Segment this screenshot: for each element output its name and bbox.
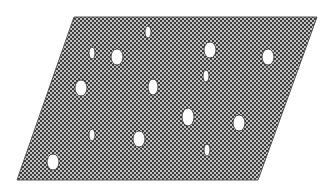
hole-large — [75, 80, 87, 96]
hole-small — [89, 47, 95, 59]
hole-small — [203, 70, 209, 82]
hole-small — [204, 144, 210, 156]
hole-large — [204, 42, 216, 58]
hole-large — [233, 115, 245, 131]
hole-large — [262, 49, 274, 65]
hole-large — [47, 154, 59, 170]
hole-large — [182, 108, 194, 126]
hole-small — [145, 26, 151, 38]
hole-small — [89, 129, 95, 141]
hole-large — [133, 131, 145, 147]
hole-large — [111, 49, 123, 65]
hole-large — [148, 79, 158, 95]
perforated-plate-figure — [0, 0, 334, 196]
